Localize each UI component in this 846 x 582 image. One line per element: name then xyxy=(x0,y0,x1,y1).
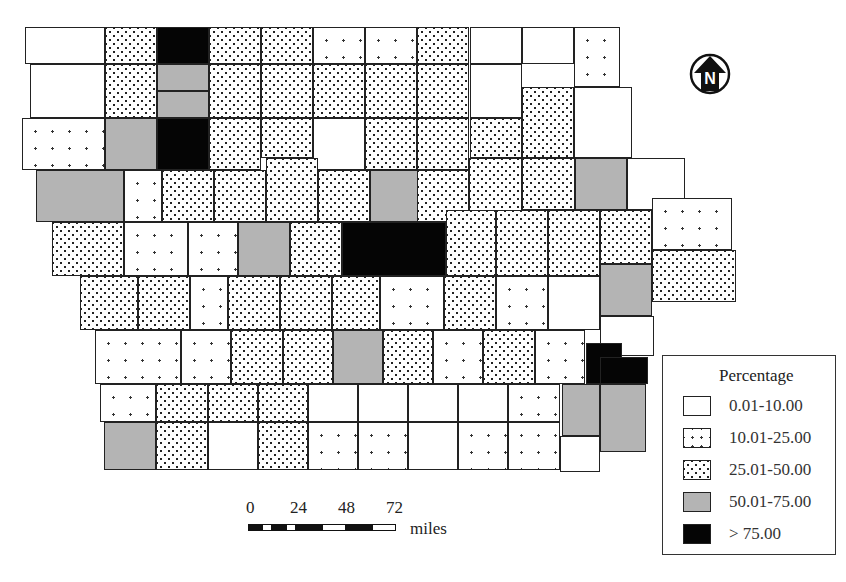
scale-tick-label: 24 xyxy=(290,498,307,518)
scale-unit: miles xyxy=(410,519,447,539)
county xyxy=(600,384,646,452)
county xyxy=(600,357,648,384)
county xyxy=(652,198,732,250)
county xyxy=(105,118,157,170)
county xyxy=(383,330,433,384)
county xyxy=(208,384,258,422)
county xyxy=(470,118,522,158)
county xyxy=(290,222,342,276)
county xyxy=(562,384,600,436)
county xyxy=(261,64,313,118)
county xyxy=(261,118,313,158)
county xyxy=(80,276,138,330)
county xyxy=(446,210,496,276)
county xyxy=(208,422,258,470)
county xyxy=(157,91,209,118)
legend-swatch xyxy=(683,460,711,480)
legend-label: 10.01-25.00 xyxy=(729,428,811,448)
county xyxy=(365,118,417,170)
county xyxy=(188,222,238,276)
county xyxy=(22,118,105,170)
county xyxy=(258,384,308,422)
county xyxy=(333,330,383,384)
county xyxy=(138,276,190,330)
county xyxy=(560,436,600,472)
legend-item: 50.01-75.00 xyxy=(683,492,833,514)
legend-label: 25.01-50.00 xyxy=(729,460,811,480)
scale-bar: 0 24 48 72 miles xyxy=(246,498,476,538)
county xyxy=(313,118,365,170)
county xyxy=(522,27,574,64)
county xyxy=(25,27,105,64)
county xyxy=(365,64,417,118)
county xyxy=(470,64,522,118)
legend-title: Percentage xyxy=(719,366,794,386)
county xyxy=(36,170,124,222)
county xyxy=(266,158,318,222)
county xyxy=(105,27,157,64)
county xyxy=(280,276,332,330)
county xyxy=(342,222,446,276)
scale-tick-label: 0 xyxy=(246,498,255,518)
county xyxy=(100,384,156,422)
county xyxy=(508,422,560,470)
county xyxy=(214,170,266,222)
county xyxy=(332,276,380,330)
legend: Percentage 0.01-10.00 10.01-25.00 25.01-… xyxy=(662,355,836,555)
north-arrow-icon: N xyxy=(689,53,731,95)
county xyxy=(209,118,261,170)
county xyxy=(104,422,156,470)
scale-tick-label: 48 xyxy=(338,498,355,518)
county xyxy=(417,64,469,118)
legend-item: 10.01-25.00 xyxy=(683,428,833,450)
county xyxy=(574,87,632,158)
county xyxy=(124,170,162,222)
county xyxy=(417,118,469,170)
county xyxy=(238,222,290,276)
county xyxy=(190,276,228,330)
county xyxy=(95,330,181,384)
legend-item: 25.01-50.00 xyxy=(683,460,833,482)
county xyxy=(156,384,208,422)
county xyxy=(508,384,560,422)
county xyxy=(157,27,209,64)
county xyxy=(156,422,208,470)
county xyxy=(535,330,585,384)
legend-label: 50.01-75.00 xyxy=(729,492,811,512)
legend-item: > 75.00 xyxy=(683,524,833,546)
county xyxy=(358,422,408,470)
county xyxy=(313,27,365,64)
county xyxy=(157,118,209,170)
county xyxy=(261,27,313,64)
county xyxy=(483,330,535,384)
legend-label: > 75.00 xyxy=(729,524,781,544)
county xyxy=(231,330,283,384)
county xyxy=(358,384,408,422)
county xyxy=(181,330,231,384)
county xyxy=(162,170,214,222)
county xyxy=(30,64,105,118)
county xyxy=(458,422,508,470)
county xyxy=(574,27,620,87)
county xyxy=(548,276,600,330)
county xyxy=(318,170,370,222)
county xyxy=(496,276,548,330)
county xyxy=(283,330,333,384)
county xyxy=(209,64,261,118)
county xyxy=(380,276,444,330)
county xyxy=(313,64,365,118)
svg-text:N: N xyxy=(704,70,716,87)
county xyxy=(496,210,548,276)
county xyxy=(433,330,483,384)
legend-swatch xyxy=(683,428,711,448)
county xyxy=(444,276,496,330)
county xyxy=(600,264,652,316)
county xyxy=(258,422,308,470)
county xyxy=(52,222,124,276)
county xyxy=(228,276,280,330)
county xyxy=(458,384,508,422)
county xyxy=(370,170,422,222)
county xyxy=(124,222,188,276)
legend-item: 0.01-10.00 xyxy=(683,396,833,418)
legend-swatch xyxy=(683,524,711,544)
